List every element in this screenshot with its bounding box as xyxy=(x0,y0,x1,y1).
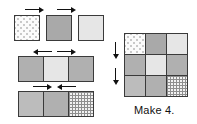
press-arrow-row3-b xyxy=(57,84,76,90)
block-caption: Make 4. xyxy=(134,104,175,116)
press-arrow-row1-a xyxy=(25,7,44,13)
block-cell-r1c2 xyxy=(145,33,167,55)
press-arrow-row2-a xyxy=(33,49,52,55)
patch-row2-col2 xyxy=(43,56,69,82)
patch-row3-col2 xyxy=(43,91,69,117)
press-arrow-row3-a xyxy=(33,84,52,90)
patch-row2-col3 xyxy=(68,56,94,82)
press-arrow-row2-b xyxy=(57,49,76,55)
block-cell-r3c1 xyxy=(124,75,146,97)
patch-row1-col1 xyxy=(14,15,40,41)
patch-row1-col3 xyxy=(78,15,104,41)
block-cell-r2c1 xyxy=(124,54,146,76)
block-cell-r3c2 xyxy=(145,75,167,97)
press-arrow-block-b xyxy=(113,68,119,85)
block-cell-r3c3 xyxy=(166,75,188,97)
block-cell-r1c3 xyxy=(166,33,188,55)
press-arrow-block-a xyxy=(113,42,119,59)
block-cell-r1c1 xyxy=(124,33,146,55)
block-cell-r2c2 xyxy=(145,54,167,76)
press-arrow-row1-b xyxy=(57,7,76,13)
patch-row1-col2 xyxy=(46,15,72,41)
block-cell-r2c3 xyxy=(166,54,188,76)
patch-row3-col1 xyxy=(18,91,44,117)
patch-row3-col3 xyxy=(68,91,94,117)
assembled-nine-patch xyxy=(124,33,187,96)
diagram-canvas: Make 4. xyxy=(0,0,197,124)
patch-row2-col1 xyxy=(18,56,44,82)
